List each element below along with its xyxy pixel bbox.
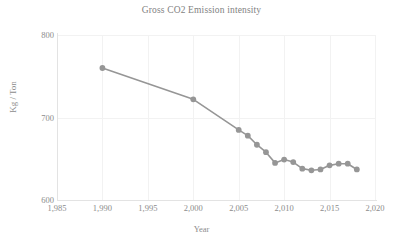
- x-tick-label: 1,995: [138, 203, 157, 213]
- data-point: [100, 65, 106, 71]
- x-tick-label: 2,010: [275, 203, 294, 213]
- data-point: [245, 133, 251, 139]
- data-point: [263, 149, 269, 155]
- data-point: [281, 157, 287, 163]
- x-tick-label: 1,990: [93, 203, 112, 213]
- chart-container: Gross CO2 Emission intensity Kg / Ton 80…: [0, 0, 403, 247]
- x-tick-label: 2,005: [229, 203, 248, 213]
- x-tick-label: 2,000: [184, 203, 203, 213]
- data-point: [336, 161, 342, 167]
- data-point: [299, 166, 305, 172]
- data-point: [354, 167, 360, 173]
- x-tick-label: 2,020: [365, 203, 384, 213]
- series-line: [102, 68, 356, 170]
- x-tick-label: 2,015: [320, 203, 339, 213]
- data-point: [236, 127, 242, 133]
- x-tick-label: 1,985: [47, 203, 66, 213]
- series-markers: [100, 65, 360, 173]
- data-point: [272, 160, 278, 166]
- data-point: [290, 159, 296, 165]
- data-point: [327, 162, 333, 168]
- data-point: [309, 167, 315, 173]
- x-axis-title: Year: [0, 224, 403, 234]
- data-point: [318, 167, 324, 173]
- data-point: [345, 161, 351, 167]
- data-point: [190, 96, 196, 102]
- data-point: [254, 142, 260, 148]
